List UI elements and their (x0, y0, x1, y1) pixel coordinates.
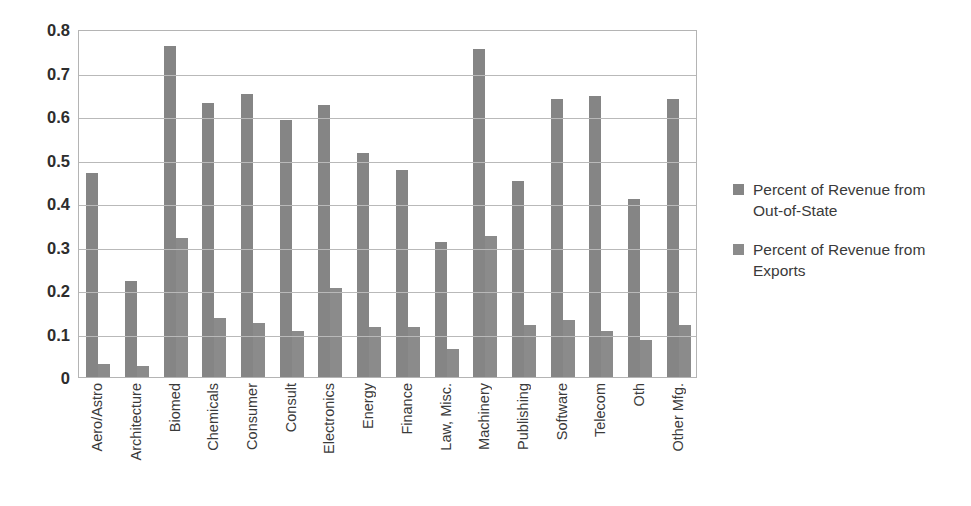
bar-group (118, 31, 157, 377)
y-tick-label: 0.8 (4, 22, 70, 39)
y-tick-label: 0 (4, 370, 70, 387)
bar-group (505, 31, 544, 377)
chart-legend: Percent of Revenue from Out-of-StatePerc… (733, 180, 963, 300)
gridline (79, 336, 696, 337)
y-tick-label: 0.6 (4, 109, 70, 126)
y-tick-label: 0.3 (4, 239, 70, 256)
bar-chart: 00.10.20.30.40.50.60.70.8 Aero/AstroArch… (0, 0, 971, 506)
bar-group (466, 31, 505, 377)
bar-group (659, 31, 698, 377)
bar (292, 331, 304, 377)
x-tick-label: Publishing (515, 383, 531, 501)
bar (176, 238, 188, 377)
bar (125, 281, 137, 377)
gridline (79, 205, 696, 206)
gridline (79, 75, 696, 76)
bar (563, 320, 575, 377)
bar-group (195, 31, 234, 377)
bar (214, 318, 226, 377)
x-tick-label: Aero/Astro (89, 383, 105, 501)
x-tick-label: Electronics (321, 383, 337, 501)
bar-group (311, 31, 350, 377)
bar-group (427, 31, 466, 377)
bar-group (79, 31, 118, 377)
gridline (79, 249, 696, 250)
legend-swatch-icon (733, 184, 744, 195)
x-tick-label: Chemicals (205, 383, 221, 501)
x-tick-label: Finance (399, 383, 415, 501)
x-tick-label: Oth (631, 383, 647, 501)
gridline (79, 162, 696, 163)
x-tick-label: Biomed (167, 383, 183, 501)
bar-layer (79, 31, 696, 377)
legend-item[interactable]: Percent of Revenue from Out-of-State (733, 180, 963, 222)
bar-group (389, 31, 428, 377)
legend-label: Percent of Revenue from Exports (753, 240, 941, 282)
bar (628, 199, 640, 377)
x-axis: Aero/AstroArchitectureBiomedChemicalsCon… (78, 379, 697, 506)
bar-group (156, 31, 195, 377)
y-axis: 00.10.20.30.40.50.60.70.8 (0, 30, 70, 378)
bar (369, 327, 381, 377)
bar (679, 325, 691, 377)
y-tick-label: 0.1 (4, 326, 70, 343)
bar (357, 153, 369, 377)
bar (435, 242, 447, 377)
bar (524, 325, 536, 377)
y-tick-label: 0.2 (4, 283, 70, 300)
bar (473, 49, 485, 377)
y-tick-label: 0.5 (4, 152, 70, 169)
bar-group (621, 31, 660, 377)
x-tick-label: Architecture (128, 383, 144, 501)
legend-swatch-icon (733, 244, 744, 255)
bar-group (350, 31, 389, 377)
x-tick-label: Machinery (476, 383, 492, 501)
gridline (79, 292, 696, 293)
bar (601, 331, 613, 377)
x-tick-label: Software (554, 383, 570, 501)
x-tick-label: Telecom (592, 383, 608, 501)
legend-item[interactable]: Percent of Revenue from Exports (733, 240, 963, 282)
bar (640, 340, 652, 377)
bar-group (272, 31, 311, 377)
bar-group (582, 31, 621, 377)
legend-label: Percent of Revenue from Out-of-State (753, 180, 941, 222)
bar (330, 288, 342, 377)
bar (98, 364, 110, 377)
bar (447, 349, 459, 377)
plot-area (78, 30, 697, 378)
y-tick-label: 0.7 (4, 65, 70, 82)
bar (396, 170, 408, 377)
bar (485, 236, 497, 377)
bar (408, 327, 420, 377)
bar (253, 323, 265, 377)
x-tick-label: Consult (283, 383, 299, 501)
bar (164, 46, 176, 377)
bar (86, 173, 98, 377)
x-tick-label: Energy (360, 383, 376, 501)
x-tick-label: Consumer Products (244, 383, 260, 501)
y-tick-label: 0.4 (4, 196, 70, 213)
bar-group (234, 31, 273, 377)
x-tick-label: Other Mfg. (670, 383, 686, 501)
bar (512, 181, 524, 377)
bar-group (543, 31, 582, 377)
bar (137, 366, 149, 377)
x-tick-label: Law, Misc. (438, 383, 454, 501)
gridline (79, 118, 696, 119)
